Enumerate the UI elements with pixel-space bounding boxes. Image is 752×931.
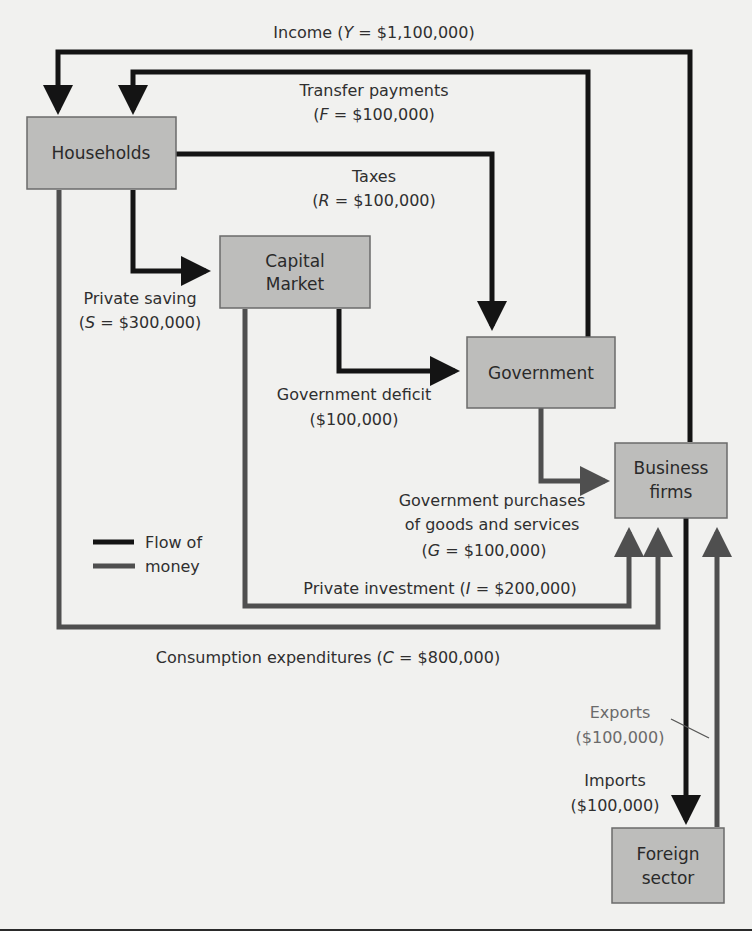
government-purchases-arrow	[541, 408, 605, 481]
exports-label-line2: ($100,000)	[576, 728, 665, 747]
business-firms-label-line2: firms	[650, 482, 693, 502]
government-node: Government	[467, 337, 615, 408]
capital-market-node: Capital Market	[220, 236, 370, 308]
legend: Flow of money	[93, 533, 202, 576]
government-deficit-label-line2: ($100,000)	[310, 410, 399, 429]
government-purchases-label-line1: Government purchases	[399, 491, 586, 510]
income-label: Income (Y = $1,100,000)	[273, 23, 474, 42]
private-investment-label: Private investment (I = $200,000)	[303, 579, 576, 598]
government-label: Government	[488, 363, 594, 383]
imports-label-line2: ($100,000)	[571, 796, 660, 815]
business-firms-node: Business firms	[615, 443, 727, 518]
legend-label-line1: Flow of	[145, 533, 202, 552]
private-saving-label-line2: (S = $300,000)	[79, 313, 202, 332]
exports-pointer-line	[671, 719, 709, 738]
foreign-sector-label-line2: sector	[642, 868, 695, 888]
imports-label-line1: Imports	[584, 771, 645, 790]
government-deficit-label-line1: Government deficit	[277, 385, 431, 404]
circular-flow-diagram: Households Capital Market Government Bus…	[0, 0, 752, 931]
exports-label-line1: Exports	[590, 703, 651, 722]
government-deficit-arrow	[339, 309, 455, 371]
business-firms-label-line1: Business	[634, 458, 709, 478]
transfer-payments-label-line1: Transfer payments	[298, 81, 448, 100]
consumption-label: Consumption expenditures (C = $800,000)	[156, 648, 500, 667]
capital-market-label-line1: Capital	[265, 251, 325, 271]
legend-label-line2: money	[145, 557, 200, 576]
capital-market-label-line2: Market	[266, 274, 325, 294]
foreign-sector-label-line1: Foreign	[637, 844, 700, 864]
government-purchases-label-line3: (G = $100,000)	[422, 541, 547, 560]
transfer-payments-label-line2: (F = $100,000)	[313, 105, 435, 124]
private-saving-label-line1: Private saving	[83, 289, 196, 308]
taxes-label-line1: Taxes	[351, 167, 396, 186]
households-node: Households	[27, 117, 176, 189]
households-label: Households	[52, 143, 151, 163]
private-saving-arrow	[133, 190, 206, 271]
government-purchases-label-line2: of goods and services	[405, 515, 580, 534]
foreign-sector-node: Foreign sector	[612, 828, 724, 903]
taxes-label-line2: (R = $100,000)	[312, 191, 436, 210]
